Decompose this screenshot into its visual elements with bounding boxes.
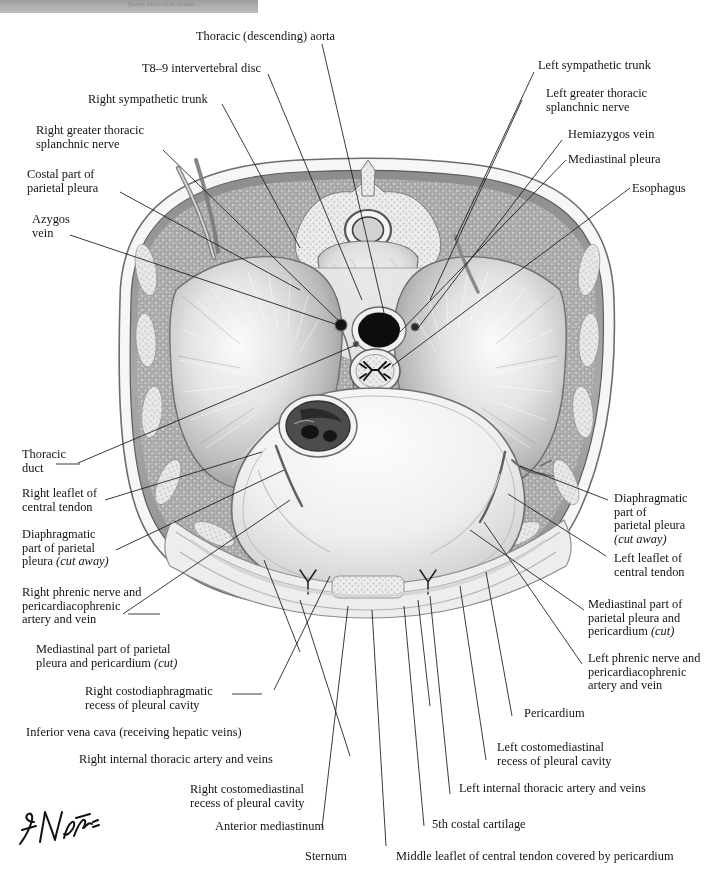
label-right-phrenic-nerve: Right phrenic nerve and pericardiacophre… [22,586,141,627]
label-right-sympathetic-trunk: Right sympathetic trunk [88,93,208,107]
label-diaphragmatic-left-note: (cut away) [614,532,667,546]
label-thoracic-aorta: Thoracic (descending) aorta [196,30,335,44]
label-azygos-vein: Azygos vein [32,213,70,240]
label-hemiazygos-vein: Hemiazygos vein [568,128,654,142]
azygos-vein-lumen [335,319,347,331]
scan-header-text: Netter plate scan header [128,1,248,9]
label-thoracic-duct: Thoracic duct [22,448,66,475]
label-costal-part-parietal-pleura: Costal part of parietal pleura [27,168,98,195]
label-mediastinal-right-main: Mediastinal part of parietal pleura and … [36,642,171,670]
artist-signature [14,800,104,858]
label-mediastinal-right-note: (cut) [154,656,177,670]
label-left-greater-thoracic-splanchnic-nerve: Left greater thoracic splanchnic nerve [546,87,647,114]
label-left-costomediastinal-recess: Left costomediastinal recess of pleural … [497,741,612,768]
label-mediastinal-left-note: (cut) [651,624,674,638]
label-left-leaflet-central-tendon: Left leaflet of central tendon [614,552,685,579]
label-inferior-vena-cava: Inferior vena cava (receiving hepatic ve… [26,726,242,740]
label-right-internal-thoracic-artery-veins: Right internal thoracic artery and veins [79,753,273,767]
label-t8-9-intervertebral-disc: T8–9 intervertebral disc [142,62,261,76]
label-diaphragmatic-part-parietal-pleura-left: Diaphragmatic part of parietal pleura (c… [614,492,688,546]
label-left-sympathetic-trunk: Left sympathetic trunk [538,59,651,73]
anatomical-plate: Netter plate scan header Thoracic (desce… [0,0,717,885]
label-right-leaflet-central-tendon: Right leaflet of central tendon [22,487,97,514]
label-mediastinal-pleura: Mediastinal pleura [568,153,661,167]
label-right-greater-thoracic-splanchnic-nerve: Right greater thoracic splanchnic nerve [36,124,144,151]
label-left-internal-thoracic-artery-veins: Left internal thoracic artery and veins [459,782,646,796]
label-diaphragmatic-part-parietal-pleura-right: Diaphragmatic part of parietal pleura (c… [22,528,109,569]
label-left-phrenic-nerve: Left phrenic nerve and pericardiacophren… [588,652,701,693]
label-5th-costal-cartilage: 5th costal cartilage [432,818,526,832]
label-esophagus: Esophagus [632,182,686,196]
label-right-costodiaphragmatic-recess: Right costodiaphragmatic recess of pleur… [85,685,213,712]
scan-header-banner: Netter plate scan header [0,0,258,13]
hemiazygos-vein-lumen [411,323,419,331]
label-diaphragmatic-right-note: (cut away) [56,554,109,568]
label-middle-leaflet-central-tendon: Middle leaflet of central tendon covered… [396,850,674,864]
label-mediastinal-part-pleura-pericardium-right: Mediastinal part of parietal pleura and … [36,643,177,670]
label-right-costomediastinal-recess: Right costomediastinal recess of pleural… [190,783,305,810]
label-anterior-mediastinum: Anterior mediastinum [215,820,324,834]
label-pericardium: Pericardium [524,707,585,721]
label-diaphragmatic-left-main: Diaphragmatic part of parietal pleura [614,491,688,532]
label-mediastinal-part-pleura-pericardium-left: Mediastinal part of parietal pleura and … [588,598,682,639]
thoracic-duct-lumen [353,341,359,347]
label-sternum: Sternum [305,850,347,864]
